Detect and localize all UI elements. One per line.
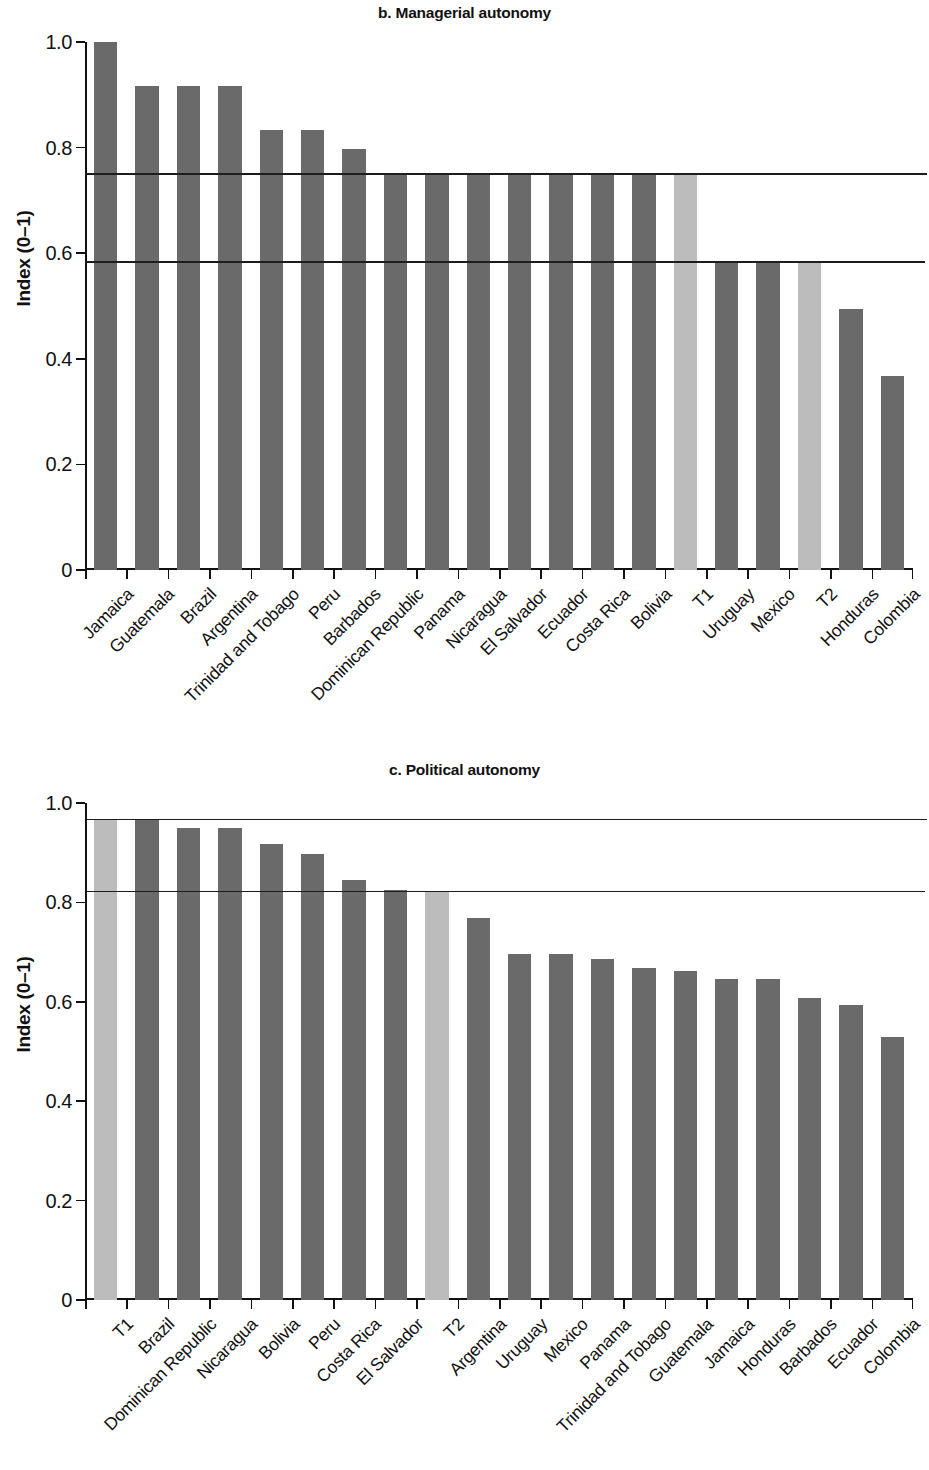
bar bbox=[301, 854, 324, 1300]
bar bbox=[756, 262, 779, 570]
x-tick-16 bbox=[747, 1300, 749, 1309]
x-tick-9 bbox=[458, 570, 460, 579]
x-tick-12 bbox=[582, 570, 584, 579]
x-tick-7 bbox=[375, 1300, 377, 1309]
y-tick-4 bbox=[76, 902, 85, 904]
y-tick-0 bbox=[76, 569, 85, 571]
x-tick-18 bbox=[830, 570, 832, 579]
bar bbox=[632, 174, 655, 570]
bar bbox=[715, 262, 738, 570]
bar bbox=[798, 998, 821, 1300]
y-tick-label-3: 0.6 bbox=[45, 990, 72, 1013]
bar bbox=[549, 174, 572, 570]
bar bbox=[425, 174, 448, 570]
bar bbox=[177, 86, 200, 570]
x-tick-0 bbox=[85, 1300, 87, 1309]
bar bbox=[260, 844, 283, 1300]
x-tick-label-16: Mexico bbox=[747, 584, 800, 637]
bar bbox=[384, 174, 407, 570]
x-tick-label-14: T1 bbox=[688, 584, 717, 613]
x-tick-14 bbox=[665, 1300, 667, 1309]
reference-line-t2 bbox=[85, 891, 925, 893]
x-tick-label-13: Bolivia bbox=[627, 584, 677, 634]
panel-c-plot-area: T1BrazilDominican RepublicNicaraguaBoliv… bbox=[85, 803, 913, 1300]
y-tick-label-3: 0.6 bbox=[45, 242, 72, 265]
panel-b-y-axis-label: Index (0–1) bbox=[13, 306, 35, 307]
panel-c-title: c. Political autonomy bbox=[0, 761, 929, 779]
x-tick-end bbox=[912, 570, 914, 579]
x-tick-8 bbox=[416, 570, 418, 579]
bar bbox=[508, 954, 531, 1300]
x-tick-11 bbox=[540, 570, 542, 579]
bar bbox=[218, 86, 241, 570]
y-tick-label-1: 0.2 bbox=[45, 1189, 72, 1212]
x-tick-16 bbox=[747, 570, 749, 579]
bar bbox=[715, 979, 738, 1300]
x-tick-18 bbox=[830, 1300, 832, 1309]
bar bbox=[260, 130, 283, 570]
x-tick-15 bbox=[706, 570, 708, 579]
bar bbox=[508, 174, 531, 570]
x-tick-5 bbox=[292, 1300, 294, 1309]
y-tick-label-5: 1.0 bbox=[45, 792, 72, 815]
panel-c-y-axis-label: Index (0–1) bbox=[13, 1051, 35, 1052]
x-tick-19 bbox=[872, 1300, 874, 1309]
x-tick-12 bbox=[582, 1300, 584, 1309]
y-tick-3 bbox=[76, 252, 85, 254]
bar bbox=[756, 979, 779, 1300]
y-tick-2 bbox=[76, 358, 85, 360]
x-tick-3 bbox=[209, 570, 211, 579]
x-tick-0 bbox=[85, 570, 87, 579]
x-tick-4 bbox=[251, 570, 253, 579]
bar bbox=[218, 828, 241, 1300]
x-tick-4 bbox=[251, 1300, 253, 1309]
panel-c-bars bbox=[85, 803, 913, 1300]
bar bbox=[342, 880, 365, 1300]
bar bbox=[342, 149, 365, 570]
bar bbox=[839, 1005, 862, 1300]
bar bbox=[549, 954, 572, 1300]
y-tick-2 bbox=[76, 1100, 85, 1102]
y-tick-label-2: 0.4 bbox=[45, 347, 72, 370]
x-tick-5 bbox=[292, 570, 294, 579]
panel-b-plot-area: JamaicaGuatemalaBrazilArgentinaTrinidad … bbox=[85, 42, 913, 570]
reference-line-t2 bbox=[85, 261, 925, 263]
bar bbox=[384, 890, 407, 1300]
bar bbox=[94, 42, 117, 570]
x-tick-14 bbox=[665, 570, 667, 579]
bar bbox=[425, 891, 448, 1300]
bar bbox=[798, 262, 821, 570]
y-tick-label-4: 0.8 bbox=[45, 136, 72, 159]
bar bbox=[301, 130, 324, 570]
y-tick-1 bbox=[76, 464, 85, 466]
bar bbox=[467, 918, 490, 1300]
y-tick-4 bbox=[76, 147, 85, 149]
bar bbox=[674, 971, 697, 1301]
x-tick-1 bbox=[126, 570, 128, 579]
bar bbox=[881, 1037, 904, 1300]
x-tick-label-0: T1 bbox=[109, 1314, 138, 1343]
bar bbox=[591, 174, 614, 570]
panel-managerial-autonomy: b. Managerial autonomy Index (0–1) Jamai… bbox=[0, 0, 929, 755]
reference-line-t1 bbox=[85, 173, 927, 175]
panel-b-title: b. Managerial autonomy bbox=[0, 4, 929, 22]
x-tick-3 bbox=[209, 1300, 211, 1309]
bar bbox=[839, 309, 862, 570]
x-tick-10 bbox=[499, 1300, 501, 1309]
x-tick-8 bbox=[416, 1300, 418, 1309]
y-tick-1 bbox=[76, 1200, 85, 1202]
x-tick-2 bbox=[168, 570, 170, 579]
x-tick-label-4: Bolivia bbox=[254, 1314, 304, 1364]
x-tick-7 bbox=[375, 570, 377, 579]
x-tick-13 bbox=[623, 1300, 625, 1309]
x-tick-6 bbox=[333, 1300, 335, 1309]
y-tick-label-2: 0.4 bbox=[45, 1090, 72, 1113]
y-tick-5 bbox=[76, 41, 85, 43]
y-tick-5 bbox=[76, 802, 85, 804]
y-tick-label-0: 0 bbox=[61, 1289, 72, 1312]
bar bbox=[674, 174, 697, 570]
x-tick-label-8: T2 bbox=[440, 1314, 469, 1343]
x-tick-15 bbox=[706, 1300, 708, 1309]
x-tick-11 bbox=[540, 1300, 542, 1309]
y-tick-label-5: 1.0 bbox=[45, 31, 72, 54]
